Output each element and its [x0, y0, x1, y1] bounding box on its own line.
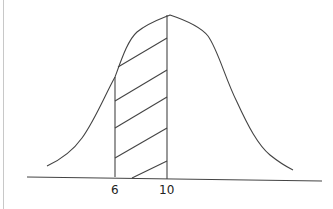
lower-bound-label: 6 [111, 183, 119, 197]
normal-curve-diagram [0, 0, 333, 209]
x-axis [27, 177, 322, 181]
hatch-lines [115, 38, 167, 178]
bell-curve [47, 15, 293, 170]
upper-bound-label: 10 [159, 183, 174, 197]
